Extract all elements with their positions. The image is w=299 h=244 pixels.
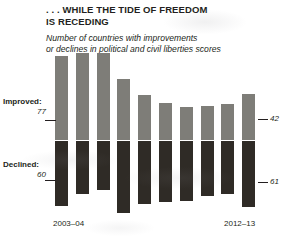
figure: . . . WHILE THE TIDE OF FREEDOM IS RECED…	[0, 0, 299, 244]
improved-leader-line	[45, 120, 56, 121]
plot-area	[0, 0, 299, 244]
x-axis-label-start: 2003–04	[53, 219, 84, 228]
bar-improved-2009-10	[180, 107, 193, 140]
bar-declined-2006-07	[117, 141, 130, 213]
declined-caption: Declined:	[3, 160, 47, 170]
bar-improved-2011-12	[221, 104, 234, 140]
bar-declined-2011-12	[221, 141, 234, 194]
declined-annotation: Declined: 60	[3, 160, 47, 180]
right-improved-value: 42	[270, 114, 279, 123]
right-declined-value: 61	[270, 177, 279, 186]
right-improved-leader-line	[258, 119, 268, 120]
bar-improved-2007-08	[138, 95, 151, 140]
x-axis-label-end: 2012–13	[224, 219, 255, 228]
bar-improved-2006-07	[117, 79, 130, 140]
improved-caption: Improved:	[3, 97, 47, 107]
bar-improved-2008-09	[159, 103, 172, 140]
bar-declined-2003-04	[55, 141, 68, 206]
bar-improved-2004-05	[76, 53, 89, 140]
improved-annotation: Improved: 77	[3, 97, 47, 117]
bar-declined-2012-13	[242, 141, 255, 207]
bar-improved-2005-06	[97, 53, 110, 140]
bar-improved-2010-11	[201, 106, 214, 140]
improved-value: 77	[3, 107, 47, 117]
bar-declined-2008-09	[159, 141, 172, 202]
right-declined-leader-line	[258, 182, 268, 183]
bar-declined-2005-06	[97, 141, 110, 190]
bar-improved-2003-04	[55, 56, 68, 140]
declined-value: 60	[3, 170, 47, 180]
declined-leader-line	[45, 180, 56, 181]
bar-improved-2012-13	[242, 94, 255, 140]
bar-declined-2010-11	[201, 141, 214, 196]
bar-declined-2004-05	[76, 141, 89, 194]
bar-declined-2007-08	[138, 141, 151, 204]
bar-declined-2009-10	[180, 141, 193, 201]
